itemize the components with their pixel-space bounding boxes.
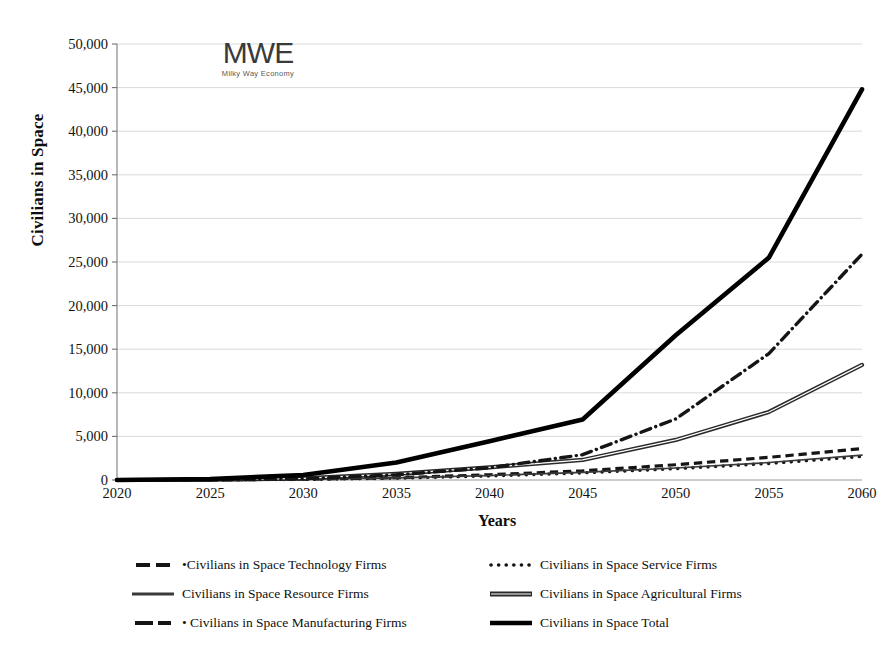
legend-item-label: Civilians in Space Agricultural Firms bbox=[540, 586, 742, 602]
legend-item[interactable]: Civilians in Space Service Firms bbox=[488, 552, 830, 578]
plot-svg bbox=[117, 44, 862, 480]
x-tick-label: 2050 bbox=[641, 485, 711, 502]
plot-area bbox=[117, 44, 862, 480]
y-tick-label: 50,000 bbox=[48, 36, 108, 53]
x-tick-label: 2020 bbox=[82, 485, 152, 502]
x-axis-title: Years bbox=[100, 512, 894, 530]
series-line-5 bbox=[117, 89, 862, 480]
y-tick-label: 10,000 bbox=[48, 384, 108, 401]
chart-legend: •Civilians in Space Technology FirmsCivi… bbox=[130, 552, 830, 644]
legend-item[interactable]: • Civilians in Space Manufacturing Firms bbox=[130, 610, 480, 636]
legend-item-label: Civilians in Space Total bbox=[540, 615, 669, 631]
legend-item[interactable]: Civilians in Space Agricultural Firms bbox=[488, 581, 830, 607]
legend-item-label: • Civilians in Space Manufacturing Firms bbox=[182, 615, 407, 631]
x-axis-tick-labels: 202020252030203520402045205020552060 bbox=[117, 485, 862, 507]
y-tick-label: 45,000 bbox=[48, 79, 108, 96]
legend-item-label: •Civilians in Space Technology Firms bbox=[182, 557, 387, 573]
legend-swatch-icon bbox=[488, 558, 534, 572]
series-line-4 bbox=[117, 254, 862, 480]
series-line-3-outer bbox=[117, 365, 862, 480]
x-tick-label: 2040 bbox=[455, 485, 525, 502]
y-tick-label: 25,000 bbox=[48, 254, 108, 271]
y-tick-label: 5,000 bbox=[48, 428, 108, 445]
x-tick-label: 2025 bbox=[175, 485, 245, 502]
legend-item[interactable]: •Civilians in Space Technology Firms bbox=[130, 552, 480, 578]
y-axis-tick-labels: 50,00045,00040,00035,00030,00025,00020,0… bbox=[45, 44, 108, 480]
series-line-3-inner bbox=[117, 365, 862, 480]
y-tick-label: 15,000 bbox=[48, 341, 108, 358]
legend-item-label: Civilians in Space Resource Firms bbox=[182, 586, 369, 602]
x-tick-label: 2045 bbox=[548, 485, 618, 502]
y-tick-label: 30,000 bbox=[48, 210, 108, 227]
logo-mark-text: MWE bbox=[203, 38, 313, 68]
legend-item[interactable]: Civilians in Space Resource Firms bbox=[130, 581, 480, 607]
mwe-logo: MWE Milky Way Economy bbox=[203, 38, 313, 78]
legend-swatch-icon bbox=[488, 616, 534, 630]
legend-swatch-icon bbox=[488, 587, 534, 601]
legend-swatch-icon bbox=[130, 558, 176, 572]
y-tick-label: 35,000 bbox=[48, 166, 108, 183]
legend-swatch-icon bbox=[130, 616, 176, 630]
chart-container: Civilians in Space 50,00045,00040,00035,… bbox=[0, 0, 894, 654]
x-tick-label: 2055 bbox=[734, 485, 804, 502]
y-tick-label: 40,000 bbox=[48, 123, 108, 140]
legend-item-label: Civilians in Space Service Firms bbox=[540, 557, 717, 573]
x-tick-label: 2030 bbox=[268, 485, 338, 502]
y-tick-label: 20,000 bbox=[48, 297, 108, 314]
legend-swatch-icon bbox=[130, 587, 176, 601]
x-tick-label: 2035 bbox=[361, 485, 431, 502]
legend-item[interactable]: Civilians in Space Total bbox=[488, 610, 830, 636]
logo-subtitle-text: Milky Way Economy bbox=[203, 69, 313, 78]
x-tick-label: 2060 bbox=[827, 485, 894, 502]
